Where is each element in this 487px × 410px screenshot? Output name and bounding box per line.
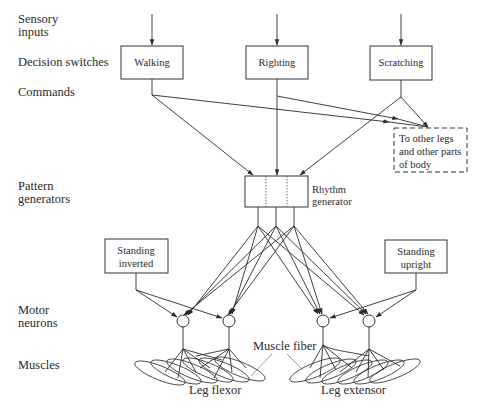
command-righting-to-body-2 (398, 119, 428, 127)
muscle-fiber-pointer-right (287, 354, 303, 370)
svg-text:Walking: Walking (134, 57, 170, 68)
level-label-sensory-2: inputs (18, 25, 49, 39)
level-label-sensory: Sensory (18, 12, 59, 26)
command-scratching-to-body (401, 97, 428, 127)
svg-text:upright: upright (401, 259, 431, 270)
svg-text:and other parts: and other parts (399, 146, 461, 157)
rhythm-generator-label-2: generator (312, 196, 352, 207)
command-walking-to-rhythm (152, 95, 253, 175)
leg-flexor-label: Leg flexor (189, 383, 242, 397)
standing-inverted-to-flexor-1 (136, 290, 177, 317)
command-scratching-to-rhythm (300, 97, 401, 175)
svg-text:Standing: Standing (117, 245, 155, 256)
motor-neuron-flexor-2 (223, 315, 235, 327)
rhythm-generator-label: Rhythm (312, 184, 346, 195)
motor-neuron-extensor-1 (317, 315, 329, 327)
neural-control-diagram: Sensory inputs Decision switches Command… (0, 0, 487, 410)
muscle-fiber-label: Muscle fiber (253, 339, 317, 353)
decision-box-walking: Walking (121, 46, 183, 79)
motor-neuron-flexor-1 (177, 315, 189, 327)
level-label-decision: Decision switches (18, 55, 109, 69)
level-label-motor-2: neurons (18, 316, 58, 330)
level-label-pattern-2: generators (18, 192, 70, 206)
leg-extensor-label: Leg extensor (321, 383, 387, 397)
command-righting-to-body (277, 96, 398, 119)
decision-box-scratching: Scratching (370, 46, 432, 80)
rhythm-generator-box (245, 176, 308, 207)
standing-upright-box: Standing upright (385, 240, 447, 273)
standing-upright-to-extensor-2 (376, 290, 416, 317)
svg-text:Scratching: Scratching (379, 57, 425, 68)
command-walking-to-body-2 (389, 122, 428, 127)
rhythm-output-lines (184, 207, 368, 315)
level-label-commands: Commands (18, 85, 75, 99)
svg-text:of body: of body (399, 159, 432, 170)
standing-inverted-box: Standing inverted (105, 239, 168, 273)
svg-text:inverted: inverted (119, 258, 154, 269)
decision-box-righting: Righting (246, 46, 308, 79)
svg-text:Righting: Righting (259, 57, 297, 68)
level-label-motor: Motor (18, 303, 50, 317)
motor-neuron-extensor-2 (363, 315, 375, 327)
svg-text:Standing: Standing (397, 246, 435, 257)
other-body-parts-box: To other legs and other parts of body (394, 128, 467, 172)
level-label-pattern: Pattern (18, 179, 54, 193)
standing-upright-to-extensor-1 (330, 290, 416, 318)
command-walking-to-body (152, 95, 389, 122)
svg-text:To other legs: To other legs (399, 133, 454, 144)
level-label-muscles: Muscles (18, 358, 60, 372)
